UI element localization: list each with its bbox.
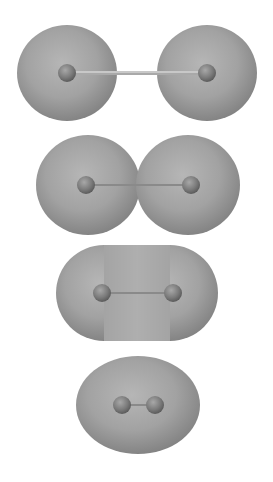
- atom-nucleus-2: [182, 176, 200, 194]
- atom-nucleus-2: [164, 284, 182, 302]
- atom-nucleus-1: [113, 396, 131, 414]
- atom-nucleus-1: [58, 64, 76, 82]
- isosurface-diagram: [0, 0, 273, 482]
- panel-separated: [17, 25, 257, 121]
- atom-nucleus-2: [198, 64, 216, 82]
- panel-ellipsoid: [76, 356, 200, 454]
- atom-nucleus-2: [146, 396, 164, 414]
- panel-peanut: [36, 135, 240, 235]
- atom-nucleus-1: [93, 284, 111, 302]
- atom-nucleus-1: [77, 176, 95, 194]
- molecular-orbital-figure: [0, 0, 273, 482]
- panel-capsule: [56, 245, 218, 341]
